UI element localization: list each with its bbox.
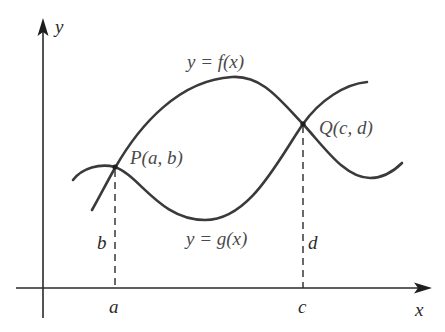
curve-g — [73, 82, 367, 220]
intersection-diagram: y x y = f(x) y = g(x) P(a, b) Q(c, d) b … — [0, 0, 445, 332]
a-tick-label: a — [109, 296, 119, 317]
x-axis-label: x — [414, 299, 424, 320]
curve-g-label: y = g(x) — [184, 228, 247, 250]
point-p-label: P(a, b) — [129, 147, 183, 169]
point-q-marker — [300, 121, 305, 126]
curve-f-label: y = f(x) — [185, 51, 244, 73]
c-tick-label: c — [298, 296, 307, 317]
y-axis-label: y — [53, 16, 64, 37]
point-q-label: Q(c, d) — [319, 117, 373, 139]
d-value-label: d — [308, 232, 318, 253]
point-p-marker — [112, 164, 117, 169]
b-value-label: b — [97, 232, 107, 253]
curve-f — [92, 77, 402, 210]
